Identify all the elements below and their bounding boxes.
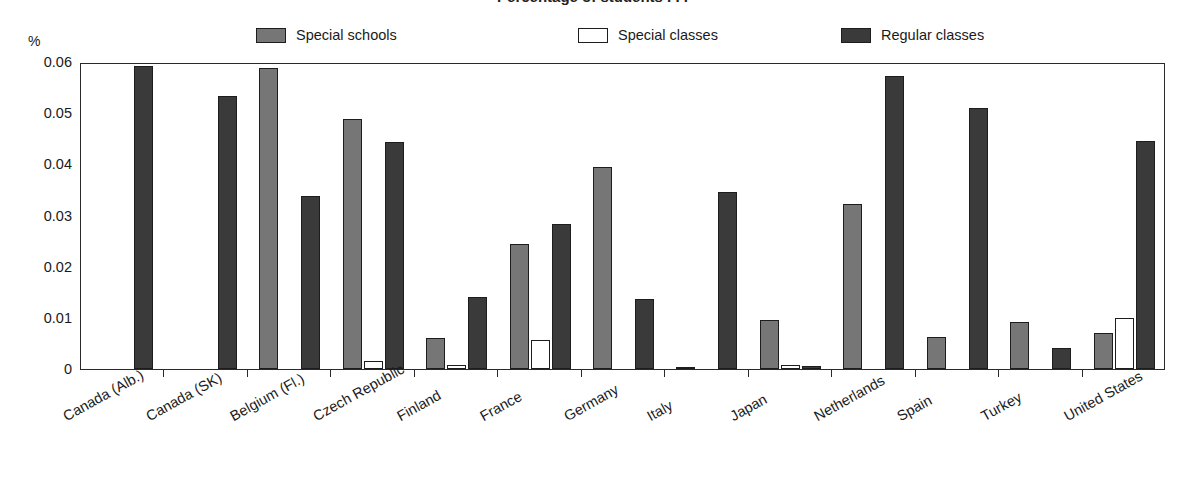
- bar-regular-classes: [301, 196, 320, 369]
- legend-swatch-regular-classes: [841, 28, 871, 43]
- bar-regular-classes: [969, 108, 988, 369]
- bar-group: [665, 64, 748, 369]
- bar-special-schools: [1010, 322, 1029, 369]
- chart-title-partial: Percentage of students . . .: [0, 0, 1185, 9]
- x-axis-category-labels: Canada (Alb.)Canada (SK)Belgium (Fl.)Cze…: [0, 370, 1185, 490]
- bar-special-schools: [426, 338, 445, 369]
- y-axis-tick-label: 0.01: [44, 310, 72, 326]
- legend-swatch-special-schools: [256, 28, 286, 43]
- bar-special-schools: [676, 367, 695, 369]
- legend-item-regular-classes: Regular classes: [841, 22, 984, 48]
- x-axis-category-label: Finland: [394, 387, 443, 424]
- chart-canvas: Percentage of students . . . Special sch…: [0, 0, 1185, 490]
- legend-swatch-special-classes: [578, 28, 608, 43]
- y-axis-unit-label: %: [28, 33, 40, 49]
- bar-special-schools: [593, 167, 612, 369]
- bar-regular-classes: [385, 142, 404, 369]
- bar-special-classes: [364, 361, 383, 369]
- bar-special-schools: [510, 244, 529, 369]
- bar-special-schools: [259, 68, 278, 369]
- bar-special-schools: [343, 119, 362, 369]
- bar-group: [498, 64, 581, 369]
- bar-special-schools: [843, 204, 862, 369]
- y-axis-tick-label: 0.03: [44, 208, 72, 224]
- chart-legend: Special schools Special classes Regular …: [0, 22, 1185, 48]
- y-axis-tick-label: 0.05: [44, 105, 72, 121]
- x-axis-category-label: Belgium (Fl.): [227, 370, 307, 424]
- bar-special-schools: [760, 320, 779, 369]
- legend-label-regular-classes: Regular classes: [881, 27, 984, 43]
- bar-group: [582, 64, 665, 369]
- bars-layer: [81, 64, 1164, 369]
- y-axis-tick-label: 0.04: [44, 156, 72, 172]
- bar-regular-classes: [552, 224, 571, 369]
- bar-group: [81, 64, 164, 369]
- bar-group: [916, 64, 999, 369]
- y-axis-tick-label: 0.02: [44, 259, 72, 275]
- plot-area: [80, 63, 1165, 370]
- legend-item-special-schools: Special schools: [256, 22, 397, 48]
- bar-special-classes: [1115, 318, 1134, 369]
- bar-regular-classes: [218, 96, 237, 369]
- x-axis-category-label: Japan: [728, 391, 770, 424]
- bar-special-schools: [1094, 333, 1113, 369]
- bar-regular-classes: [1136, 141, 1155, 369]
- legend-label-special-schools: Special schools: [296, 27, 397, 43]
- x-axis-category-label: United States: [1062, 368, 1146, 424]
- legend-item-special-classes: Special classes: [578, 22, 718, 48]
- x-axis-category-label: Netherlands: [811, 372, 887, 424]
- bar-regular-classes: [635, 299, 654, 369]
- bar-group: [331, 64, 414, 369]
- x-axis-category-label: Canada (SK): [143, 369, 224, 424]
- x-axis-category-label: Canada (Alb.): [60, 367, 146, 424]
- bar-group: [749, 64, 832, 369]
- bar-regular-classes: [1052, 348, 1071, 369]
- y-axis-tick-labels: 00.010.020.030.040.050.06: [0, 63, 72, 370]
- x-axis-category-label: Germany: [561, 381, 621, 424]
- legend-label-special-classes: Special classes: [618, 27, 718, 43]
- bar-group: [1083, 64, 1166, 369]
- bar-regular-classes: [802, 366, 821, 369]
- bar-special-classes: [781, 365, 800, 369]
- bar-group: [164, 64, 247, 369]
- bar-group: [999, 64, 1082, 369]
- x-axis-category-label: Spain: [895, 392, 935, 424]
- x-axis-category-label: Turkey: [978, 389, 1024, 424]
- x-axis-category-label: Czech Republic: [310, 361, 407, 424]
- bar-special-classes: [531, 340, 550, 369]
- bar-group: [832, 64, 915, 369]
- bar-group: [248, 64, 331, 369]
- bar-special-schools: [927, 337, 946, 369]
- chart-title-text: Percentage of students . . .: [0, 0, 1185, 5]
- x-axis-category-label: France: [477, 388, 524, 424]
- bar-regular-classes: [134, 66, 153, 369]
- bar-special-classes: [447, 365, 466, 369]
- bar-regular-classes: [718, 192, 737, 369]
- y-axis-tick-label: 0.06: [44, 54, 72, 70]
- bar-group: [415, 64, 498, 369]
- bar-regular-classes: [468, 297, 487, 369]
- bar-regular-classes: [885, 76, 904, 369]
- x-axis-category-label: Italy: [644, 397, 675, 424]
